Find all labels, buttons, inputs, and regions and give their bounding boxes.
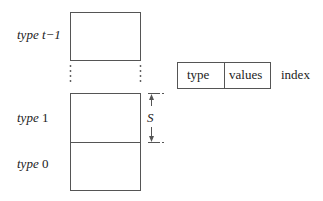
block-type-1 xyxy=(71,94,141,143)
label-suffix: t−1 xyxy=(42,27,61,42)
label-word: type xyxy=(17,110,39,125)
label-type-t-minus-1: type t−1 xyxy=(17,27,61,43)
record-index-label: index xyxy=(281,67,310,83)
record-field-values: values xyxy=(229,67,262,83)
label-type-1: type 1 xyxy=(17,110,48,126)
block-type-t-minus-1 xyxy=(71,13,141,61)
record-field-type: type xyxy=(187,67,209,83)
label-suffix: 0 xyxy=(42,156,49,171)
label-word: type xyxy=(17,27,39,42)
size-label: S xyxy=(147,110,154,126)
label-word: type xyxy=(17,156,39,171)
label-type-0: type 0 xyxy=(17,156,48,172)
label-suffix: 1 xyxy=(42,110,49,125)
block-type-0 xyxy=(71,143,141,191)
